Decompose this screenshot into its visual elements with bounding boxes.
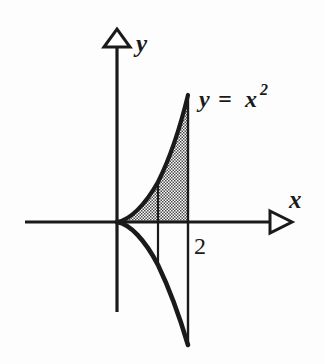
shaded-region xyxy=(117,97,188,222)
curve-label-rhs: x xyxy=(244,86,257,112)
arrow-right-hollow-icon xyxy=(270,211,292,233)
graph-svg: y x 2 y = x 2 xyxy=(0,0,325,364)
arrow-up-hollow-icon xyxy=(104,29,130,47)
figure-canvas: y x 2 y = x 2 xyxy=(0,0,325,364)
y-axis-label: y xyxy=(133,30,148,57)
y-axis xyxy=(104,29,130,312)
curve-label-equals: = xyxy=(218,86,232,112)
curve-label-exponent: 2 xyxy=(259,81,268,98)
x-axis-label: x xyxy=(288,186,302,213)
parabola-mirrored-curve xyxy=(117,222,188,345)
x-tick-label-2: 2 xyxy=(194,233,206,259)
curve-label-lhs: y xyxy=(196,86,210,112)
curve-equation-label: y = x 2 xyxy=(196,81,268,112)
